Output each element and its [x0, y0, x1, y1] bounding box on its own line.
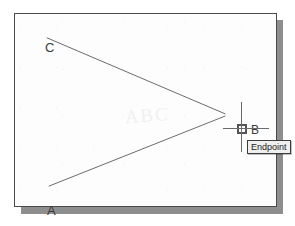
line-segment-ab[interactable]	[49, 116, 226, 186]
line-segment-cb[interactable]	[47, 38, 226, 114]
endpoint-snap-marker-icon	[237, 124, 247, 134]
vertex-label-c: C	[45, 41, 54, 54]
crosshair-vertical-icon	[241, 102, 242, 152]
vertex-label-b: B	[251, 124, 259, 136]
cad-drawing-window: ABC C B A Endpoint	[14, 13, 277, 207]
crosshair-horizontal-icon	[223, 128, 269, 129]
endpoint-tooltip: Endpoint	[247, 140, 291, 154]
vertex-label-a: A	[47, 204, 56, 217]
screenshot-stage: ABC C B A Endpoint	[0, 0, 295, 226]
